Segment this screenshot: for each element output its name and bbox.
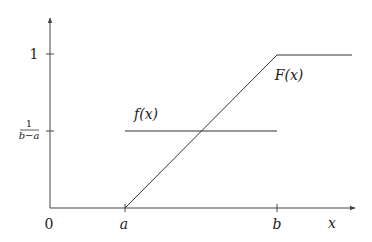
x-axis-label: x <box>328 215 336 231</box>
y-tick-label-density-den: b−a <box>19 130 40 141</box>
uniform-distribution-diagram: 1 1 b−a 0 a b x f(x) F(x) <box>0 0 372 242</box>
x-tick-label-a: a <box>120 216 128 232</box>
y-tick-label-1: 1 <box>30 46 39 62</box>
y-tick-label-density-num: 1 <box>26 118 32 129</box>
cdf-label: F(x) <box>274 67 304 83</box>
density-label: f(x) <box>133 106 158 122</box>
origin-label: 0 <box>45 216 54 232</box>
x-tick-label-b: b <box>273 216 282 232</box>
